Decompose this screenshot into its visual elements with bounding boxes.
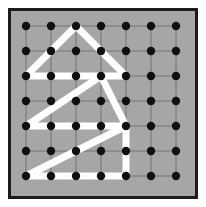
peg-dot xyxy=(47,47,55,55)
peg-dot xyxy=(172,47,180,55)
geoboard-canvas xyxy=(0,0,206,207)
peg-dot xyxy=(72,72,80,80)
peg-dot xyxy=(147,97,155,105)
peg-dot xyxy=(97,172,105,180)
peg-dot xyxy=(72,97,80,105)
peg-dot xyxy=(47,172,55,180)
peg-dot xyxy=(122,172,130,180)
peg-dot xyxy=(147,47,155,55)
peg-dot xyxy=(22,147,30,155)
peg-dot xyxy=(22,22,30,30)
peg-dot xyxy=(172,22,180,30)
peg-dot xyxy=(22,97,30,105)
peg-dot xyxy=(72,47,80,55)
peg-dot xyxy=(122,22,130,30)
peg-dot xyxy=(72,122,80,130)
peg-dot xyxy=(47,72,55,80)
peg-dot xyxy=(122,147,130,155)
peg-dot xyxy=(22,122,30,130)
peg-dot xyxy=(47,147,55,155)
peg-dot xyxy=(97,47,105,55)
peg-dot xyxy=(147,172,155,180)
geoboard-figure xyxy=(0,0,206,207)
peg-dot xyxy=(47,122,55,130)
peg-dot xyxy=(72,172,80,180)
peg-dot xyxy=(122,47,130,55)
peg-dot xyxy=(147,22,155,30)
peg-dot xyxy=(172,172,180,180)
peg-dot xyxy=(22,172,30,180)
peg-dot xyxy=(72,147,80,155)
peg-dot xyxy=(47,97,55,105)
peg-dot xyxy=(97,97,105,105)
peg-dot xyxy=(122,72,130,80)
peg-dot xyxy=(22,72,30,80)
peg-dot xyxy=(22,47,30,55)
peg-dot xyxy=(172,97,180,105)
peg-dot xyxy=(72,22,80,30)
peg-dot xyxy=(147,122,155,130)
peg-dot xyxy=(147,147,155,155)
peg-dot xyxy=(47,22,55,30)
peg-dot xyxy=(97,72,105,80)
peg-dot xyxy=(97,147,105,155)
peg-dot xyxy=(122,122,130,130)
peg-dot xyxy=(172,72,180,80)
peg-dot xyxy=(172,122,180,130)
peg-dot xyxy=(147,72,155,80)
peg-dot xyxy=(97,122,105,130)
peg-dot xyxy=(97,22,105,30)
peg-dot xyxy=(122,97,130,105)
peg-dot xyxy=(172,147,180,155)
